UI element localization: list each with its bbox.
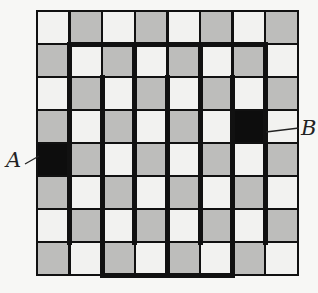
- label-a: A: [6, 148, 21, 172]
- label-b: B: [301, 116, 316, 140]
- label-leader-lines: [0, 0, 318, 293]
- grid-diagram: A B: [0, 0, 318, 293]
- leader-line-a: [25, 156, 39, 164]
- leader-line-b: [266, 128, 299, 132]
